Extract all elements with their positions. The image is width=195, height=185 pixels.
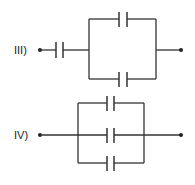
circuit-iv: IV) bbox=[14, 96, 183, 171]
circuit-iv-label: IV) bbox=[14, 129, 28, 141]
terminal-right-iv bbox=[179, 133, 183, 137]
terminal-right-iii bbox=[179, 48, 183, 52]
circuit-diagram: III) IV) bbox=[0, 0, 195, 185]
circuit-iii-label: III) bbox=[14, 44, 27, 56]
circuit-iii: III) bbox=[14, 12, 183, 87]
